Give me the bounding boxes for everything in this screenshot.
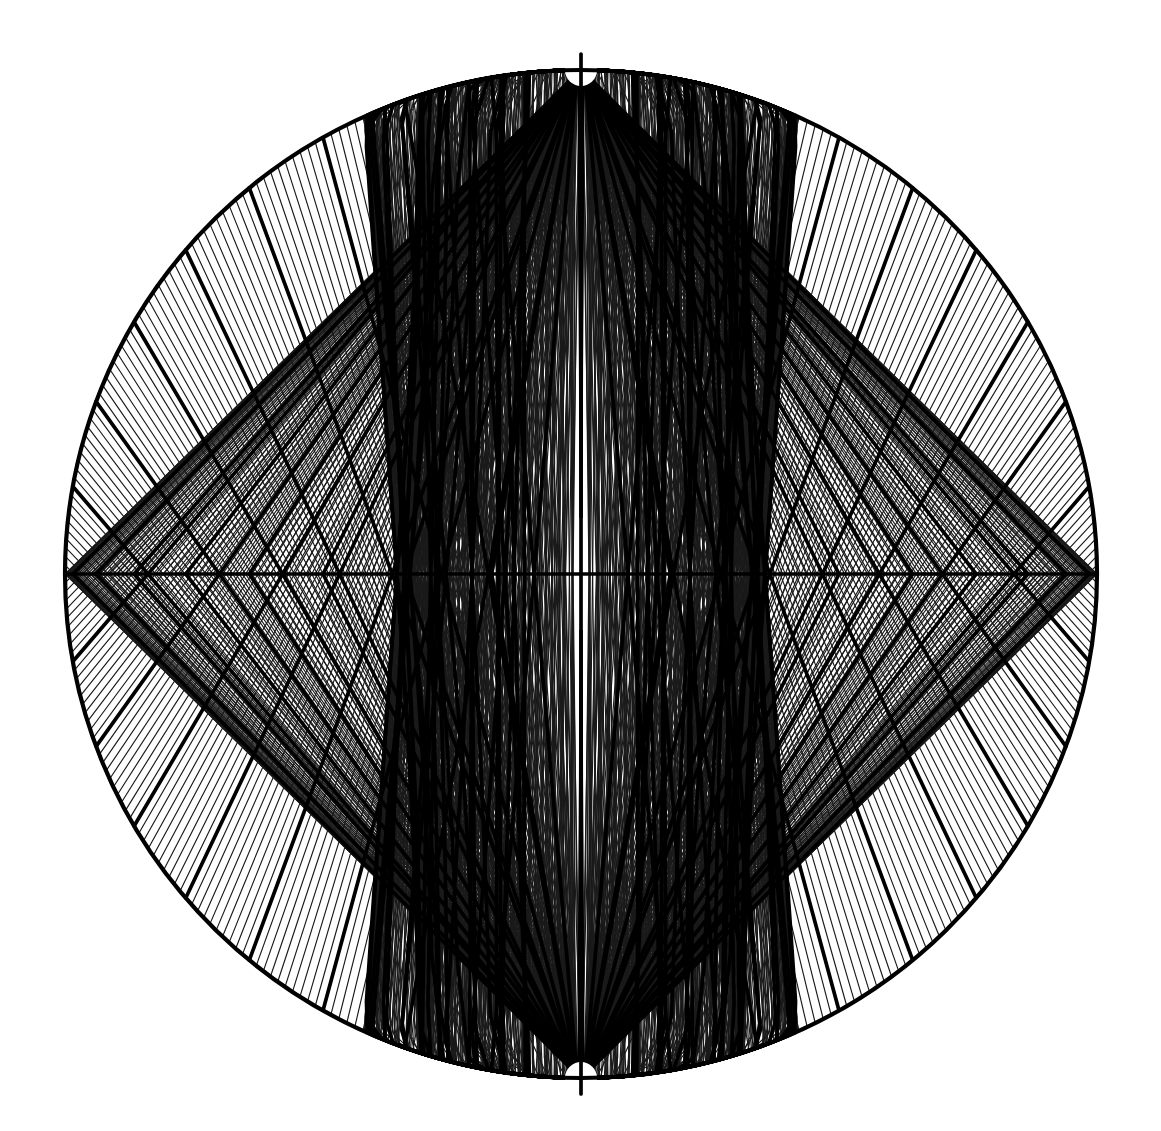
globe-graticule-figure [0,0,1161,1131]
graticule-canvas [0,0,1161,1131]
